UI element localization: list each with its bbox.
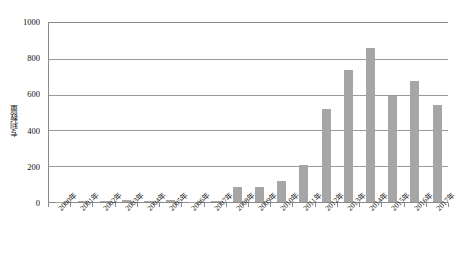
bar-slot (382, 23, 404, 202)
bar (366, 48, 375, 202)
bar-slot (249, 23, 271, 202)
bar-slot (182, 23, 204, 202)
y-axis-tick-label: 0 (36, 198, 40, 208)
y-axis-tick-label: 800 (27, 53, 40, 63)
bar (322, 109, 331, 202)
bar-slot (293, 23, 315, 202)
bar-slot (359, 23, 381, 202)
plot-area (48, 22, 448, 203)
bar (299, 165, 308, 202)
bar-slot (337, 23, 359, 202)
bar-slot (226, 23, 248, 202)
bar (388, 96, 397, 203)
x-axis-tick-labels: 2000年2001年2002年2003年2004年2005年2006年2007年… (48, 207, 448, 255)
bar-series (49, 23, 448, 202)
bar (410, 81, 419, 202)
bar-slot (204, 23, 226, 202)
bar-slot (404, 23, 426, 202)
bar-slot (116, 23, 138, 202)
y-axis-tick-labels: 1000 800 600 400 200 0 (0, 22, 44, 203)
bar-slot (271, 23, 293, 202)
bar-slot (138, 23, 160, 202)
y-axis-tick-label: 600 (27, 89, 40, 99)
bar-slot (71, 23, 93, 202)
bar-chart: 专利数量 1000 800 600 400 200 0 2000年2001年20… (0, 0, 456, 258)
bar-slot (315, 23, 337, 202)
y-axis-tick-label: 400 (27, 126, 40, 136)
y-axis-tick-label: 1000 (23, 17, 40, 27)
bar-slot (49, 23, 71, 202)
bar-slot (160, 23, 182, 202)
bar-slot (93, 23, 115, 202)
bar-slot (426, 23, 448, 202)
bar (433, 105, 442, 202)
bar (344, 70, 353, 202)
y-axis-tick-label: 200 (27, 162, 40, 172)
